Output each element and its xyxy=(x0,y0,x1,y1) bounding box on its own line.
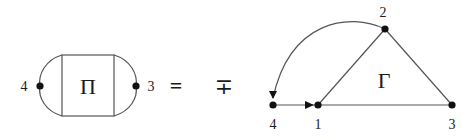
node-2 xyxy=(381,25,388,32)
edge-2-3 xyxy=(385,29,452,105)
edge-1-2 xyxy=(318,29,385,105)
left-node-4 xyxy=(36,82,43,89)
right-node-label: 3 xyxy=(148,79,155,94)
arrow-into-4 xyxy=(269,91,277,99)
node-3-label: 3 xyxy=(449,117,456,132)
node-3 xyxy=(448,101,455,108)
feynman-diagram-equation: Π 4 3 = ∓ Γ 2 4 1 3 xyxy=(0,0,476,140)
equals-sign: = xyxy=(170,73,183,98)
node-2-label: 2 xyxy=(380,5,387,20)
arrow-into-1 xyxy=(305,101,314,109)
right-node-3 xyxy=(132,82,139,89)
arc-2-to-4 xyxy=(273,22,385,98)
box-symbol: Π xyxy=(80,74,96,99)
node-4-label: 4 xyxy=(270,117,277,132)
region-symbol: Γ xyxy=(378,68,391,93)
node-4 xyxy=(269,101,276,108)
node-1 xyxy=(314,101,321,108)
left-node-label: 4 xyxy=(21,79,28,94)
right-diagram xyxy=(273,22,452,105)
minus-plus-sign: ∓ xyxy=(215,74,233,99)
node-1-label: 1 xyxy=(315,117,322,132)
